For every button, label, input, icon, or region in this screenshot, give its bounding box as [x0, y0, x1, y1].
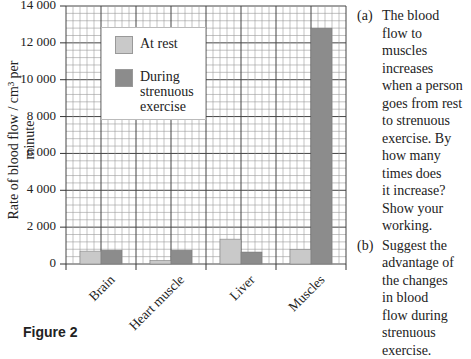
question-text-line: in blood	[382, 289, 471, 307]
question-text-line: muscles	[382, 42, 471, 60]
question-text-line: advantage of	[382, 254, 471, 272]
bar-heart-muscle-exercise	[171, 250, 192, 264]
bar-brain-exercise	[101, 250, 122, 264]
legend-label-rest: At rest	[140, 36, 178, 51]
question-text-line: The blood	[382, 7, 471, 25]
y-tick-label: 0	[0, 255, 56, 271]
question-text-line: it increase?	[382, 182, 471, 200]
question-text-line: goes from rest	[382, 95, 471, 113]
question-text-line: flow during	[382, 307, 471, 325]
question-text-line: strenuous	[382, 324, 471, 342]
legend-swatch-rest	[115, 36, 133, 54]
legend-label-exercise: During strenuous exercise	[140, 69, 194, 114]
question-a: (a)The bloodflow tomusclesincreaseswhen …	[357, 7, 471, 235]
question-text-line: exercise. By	[382, 130, 471, 148]
y-tick-label: 6 000	[0, 144, 56, 160]
legend: At rest During strenuous exercise	[101, 27, 206, 120]
question-text-line: Suggest the	[382, 237, 471, 255]
bar-muscles-rest	[290, 249, 311, 264]
question-text-line: increases	[382, 60, 471, 78]
figure-label: Figure 2	[23, 324, 77, 340]
question-number: (b)	[357, 237, 373, 255]
question-b: (b)Suggest theadvantage ofthe changesin …	[357, 237, 471, 359]
y-tick-label: 2 000	[0, 218, 56, 234]
question-text-line: to strenuous	[382, 112, 471, 130]
question-text-line: exercise.	[382, 342, 471, 359]
bar-muscles-exercise	[311, 28, 332, 264]
question-text-line: when a person	[382, 77, 471, 95]
y-tick-label: 12 000	[0, 34, 56, 50]
question-text-line: Show your	[382, 200, 471, 218]
question-text-line: the changes	[382, 272, 471, 290]
bar-liver-rest	[220, 239, 241, 264]
legend-swatch-exercise	[115, 69, 133, 87]
y-tick-label: 8 000	[0, 108, 56, 124]
question-text-line: flow to	[382, 25, 471, 43]
question-list: (a)The bloodflow tomusclesincreaseswhen …	[357, 7, 471, 359]
question-text-line: how many	[382, 147, 471, 165]
bar-liver-exercise	[241, 252, 262, 264]
question-text-line: times does	[382, 165, 471, 183]
question-number: (a)	[357, 7, 373, 25]
y-tick-label: 4 000	[0, 181, 56, 197]
bar-brain-rest	[80, 251, 101, 264]
y-tick-label: 10 000	[0, 71, 56, 87]
bar-heart-muscle-rest	[150, 260, 171, 264]
y-tick-label: 14 000	[0, 0, 56, 13]
question-text-line: working.	[382, 217, 471, 235]
